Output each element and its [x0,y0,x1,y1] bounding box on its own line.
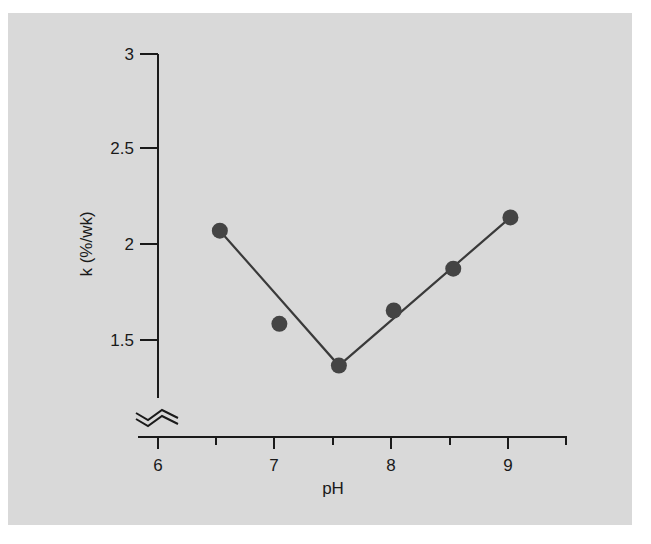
x-tick-label: 8 [386,456,395,475]
data-point [386,303,402,319]
axis-break-icon [136,410,178,426]
y-axis-title: k (%/wk) [77,211,96,276]
data-point [212,223,228,239]
data-point [502,209,518,225]
x-tick-label: 6 [153,456,162,475]
y-tick-label: 3 [125,45,134,64]
chart-svg: 3 2.5 2 1.5 6 7 8 9 pH k (%/wk) [0,0,651,544]
x-tick-label: 9 [503,456,512,475]
y-tick-label: 1.5 [110,331,134,350]
data-point [271,316,287,332]
data-point [331,358,347,374]
data-point [445,261,461,277]
fit-line [220,217,511,365]
plot-area [212,209,519,373]
x-axis-title: pH [322,479,344,498]
x-axis: 6 7 8 9 [138,437,567,475]
y-tick-label: 2 [125,235,134,254]
x-tick-label: 7 [269,456,278,475]
y-tick-label: 2.5 [110,139,134,158]
y-axis: 3 2.5 2 1.5 [110,45,158,398]
